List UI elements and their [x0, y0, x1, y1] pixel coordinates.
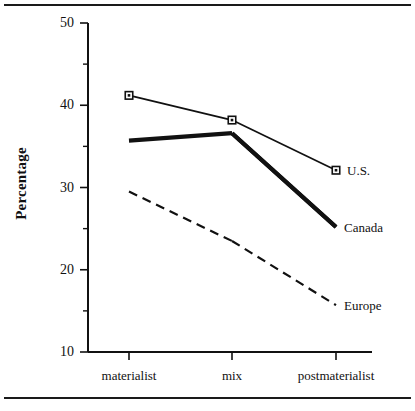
series-label-canada: Canada — [344, 221, 383, 234]
x-axis-tick-label: mix — [222, 369, 242, 382]
data-series-lines — [129, 95, 336, 305]
axis-lines — [88, 23, 372, 352]
y-axis-tick-label: 50 — [40, 16, 74, 30]
y-axis-major-ticks — [80, 23, 88, 352]
data-point-marker-center — [128, 94, 131, 97]
y-axis-tick-label: 40 — [40, 98, 74, 112]
x-axis-ticks — [129, 352, 336, 360]
x-axis-tick-label: materialist — [102, 369, 157, 382]
data-point-marker-center — [335, 169, 338, 172]
data-point-marker-center — [231, 119, 234, 122]
y-axis-tick-label: 20 — [40, 263, 74, 277]
figure: Percentage 1020304050 materialistmixpost… — [0, 0, 415, 411]
series-label-u-s: U.S. — [347, 164, 370, 177]
y-axis-tick-label: 10 — [40, 345, 74, 359]
series-label-europe: Europe — [344, 299, 382, 312]
x-axis-tick-label: postmaterialist — [298, 369, 375, 382]
y-axis-tick-label: 30 — [40, 181, 74, 195]
